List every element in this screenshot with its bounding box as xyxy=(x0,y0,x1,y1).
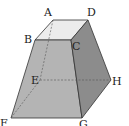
label-b: B xyxy=(24,33,32,46)
label-a: A xyxy=(43,6,53,19)
label-e: E xyxy=(31,74,39,87)
label-h: H xyxy=(112,75,122,88)
label-f: F xyxy=(0,117,8,126)
label-c: C xyxy=(72,40,80,53)
label-d: D xyxy=(87,6,96,19)
label-g: G xyxy=(79,118,88,126)
frustum-diagram: A B C D E F G H xyxy=(0,0,129,126)
